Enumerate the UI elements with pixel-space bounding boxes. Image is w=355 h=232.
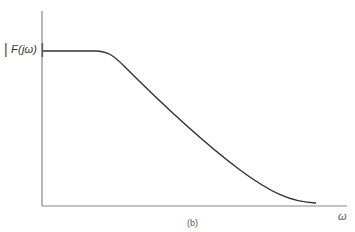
figure-caption: (b) [187,218,198,228]
y-axis-label: | F(jω) | [4,41,44,57]
plot-area [0,0,355,232]
magnitude-curve [43,51,316,203]
x-axis-label: ω [338,210,347,222]
